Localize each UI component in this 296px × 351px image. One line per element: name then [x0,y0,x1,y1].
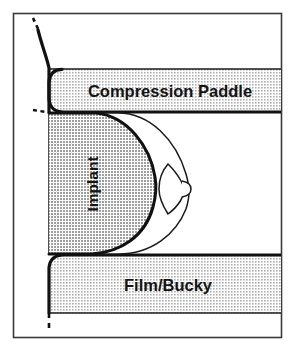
implant-label: Implant [84,156,101,211]
film-bucky-label: Film/Bucky [124,276,213,294]
mammography-implant-diagram: Compression Paddle Film/Bucky Implant [0,0,296,351]
figure-root: Compression Paddle Film/Bucky Implant [0,0,296,351]
compression-paddle-label: Compression Paddle [88,82,252,100]
